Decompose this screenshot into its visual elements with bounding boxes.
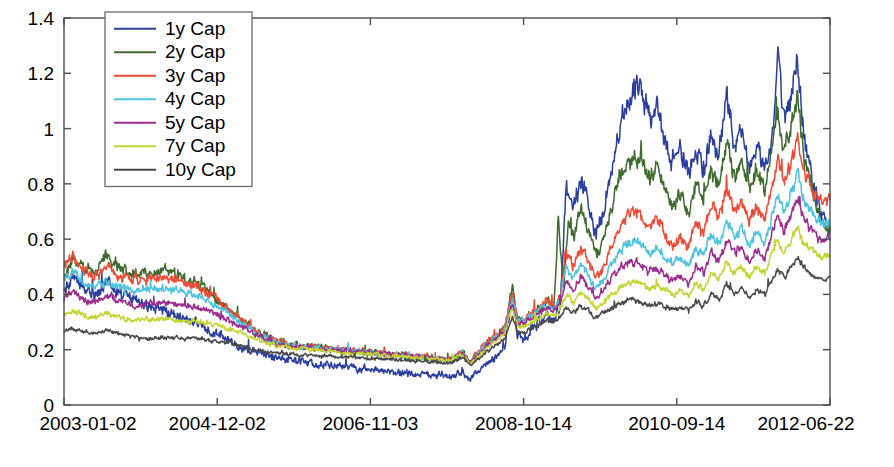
legend-label-3y-cap: 3y Cap [165,65,225,86]
x-tick-label-3: 2008-10-14 [475,413,573,434]
y-tick-label-2: 0.4 [28,284,55,305]
x-tick-label-2: 2006-11-03 [323,413,419,434]
y-tick-label-3: 0.6 [28,229,54,250]
legend-label-7y-cap: 7y Cap [165,135,225,156]
x-tick-label-5: 2012-06-22 [757,413,854,434]
x-tick-label-4: 2010-09-14 [628,413,726,434]
x-tick-labels: 2003-01-022004-12-022006-11-032008-10-14… [39,413,854,434]
y-tick-label-6: 1.2 [28,63,54,84]
chart-figure: 00.20.40.60.811.21.4 2003-01-022004-12-0… [0,0,894,467]
series-line-4y-cap [64,169,830,364]
chart-legend[interactable]: 1y Cap2y Cap3y Cap4y Cap5y Cap7y Cap10y … [105,12,252,187]
y-tick-labels: 00.20.40.60.811.21.4 [28,8,55,416]
y-tick-label-4: 0.8 [28,174,54,195]
y-tick-label-7: 1.4 [28,8,55,29]
x-tick-label-0: 2003-01-02 [39,413,136,434]
x-tick-label-1: 2004-12-02 [169,413,266,434]
y-tick-label-1: 0.2 [28,340,54,361]
legend-label-5y-cap: 5y Cap [165,112,225,133]
y-tick-label-5: 1 [43,119,54,140]
timeseries-chart: 00.20.40.60.811.21.4 2003-01-022004-12-0… [0,0,894,467]
legend-label-10y-cap: 10y Cap [165,159,236,180]
legend-label-1y-cap: 1y Cap [165,18,225,39]
legend-label-4y-cap: 4y Cap [165,88,225,109]
legend-label-2y-cap: 2y Cap [165,41,225,62]
